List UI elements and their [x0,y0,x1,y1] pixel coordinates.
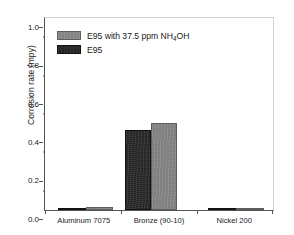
chart-figure: Corrosion rate (mpy) 0.0 0.2 0.4 0.6 0.8… [0,0,294,235]
legend-label-prefix: E95 with 37.5 ppm NH [87,31,173,41]
y-tick-mark-3 [39,104,43,105]
plot-area: 0.0 0.2 0.4 0.6 0.8 1.0 Aluminum 7075 Br… [44,17,274,211]
bar-nickel-e95 [208,208,236,210]
x-category-label-aluminum: Aluminum 7075 [57,216,110,225]
y-minor-tick-2 [43,114,46,115]
x-category-label-nickel: Nickel 200 [217,216,252,225]
y-tick-label-1: 0.2 [28,176,39,185]
legend-label-subscript: 4 [173,35,177,42]
bar-nickel-e95-nh4oh [236,208,264,210]
y-tick-label-0: 0.0 [28,215,39,224]
y-tick-label-2: 0.4 [28,138,39,147]
y-tick-mark-5 [39,27,43,28]
legend-swatch-dark-icon [57,45,81,54]
bar-bronze-e95 [125,130,151,210]
x-tick-sep-1 [121,210,122,214]
legend-item-e95-nh4oh: E95 with 37.5 ppm NH4OH [57,29,189,42]
x-tick-start [45,210,46,214]
chart-legend: E95 with 37.5 ppm NH4OH E95 [57,29,189,57]
y-tick-mark-1 [39,181,43,182]
y-minor-tick-0 [43,190,46,191]
bar-aluminum-e95 [58,208,86,210]
y-tick-label-3: 0.6 [28,100,39,109]
y-tick-label-4: 0.8 [28,61,39,70]
x-tick-end [272,210,273,214]
legend-label-e95-nh4oh: E95 with 37.5 ppm NH4OH [87,31,189,41]
y-minor-tick-1 [43,152,46,153]
legend-swatch-gray-icon [57,31,81,40]
y-tick-mark-2 [39,142,43,143]
x-tick-sep-2 [197,210,198,214]
y-tick-mark-4 [39,66,43,67]
y-minor-tick-4 [43,37,46,38]
bar-aluminum-e95-nh4oh [86,207,114,210]
y-minor-tick-3 [43,75,46,76]
legend-label-e95: E95 [87,45,102,55]
x-category-label-bronze: Bronze (90-10) [134,216,185,225]
legend-label-suffix: OH [177,31,190,41]
y-tick-mark-0 [39,219,43,220]
bar-bronze-e95-nh4oh [151,123,177,210]
legend-item-e95: E95 [57,43,189,56]
y-tick-label-5: 1.0 [28,23,39,32]
